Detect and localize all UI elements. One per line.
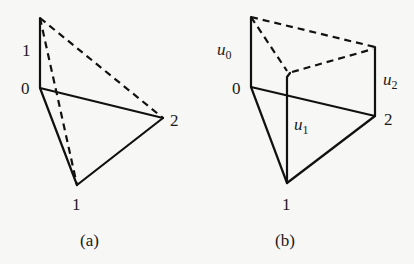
label-height-1: 1 — [22, 41, 31, 60]
edge-1-2 — [77, 118, 163, 185]
label-u2: u2 — [383, 70, 398, 92]
diagram-figure: 1 0 2 1 (a) u0 0 u1 u2 2 1 (b) — [0, 0, 414, 264]
edge-0-1 — [251, 87, 287, 183]
dashed-top-0-2 — [251, 17, 375, 47]
label-vertex-0: 0 — [232, 79, 241, 98]
label-vertex-2: 2 — [384, 110, 393, 129]
panel-a: 1 0 2 1 (a) — [21, 18, 179, 250]
label-vertex-1: 1 — [72, 195, 81, 214]
label-vertex-1: 1 — [282, 195, 291, 214]
caption-a: (a) — [80, 231, 99, 250]
diagram-canvas: 1 0 2 1 (a) u0 0 u1 u2 2 1 (b) — [0, 0, 414, 264]
label-vertex-2: 2 — [170, 111, 179, 130]
panel-b: u0 0 u1 u2 2 1 (b) — [217, 17, 398, 250]
edge-0-2 — [251, 87, 375, 116]
vertical-u1 — [287, 73, 290, 183]
caption-b: (b) — [275, 231, 295, 250]
label-vertex-0: 0 — [21, 79, 30, 98]
label-u1: u1 — [294, 115, 309, 137]
dashed-top-0-1 — [251, 17, 287, 71]
dashed-top-1-2 — [292, 49, 373, 72]
label-u0: u0 — [217, 40, 232, 62]
